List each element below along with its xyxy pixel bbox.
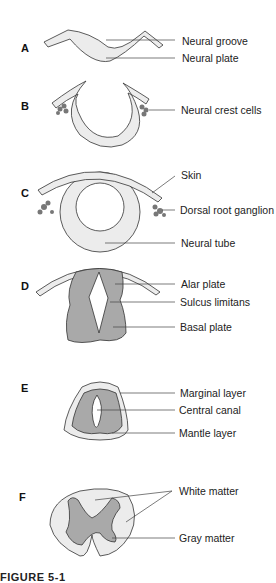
label-sulcus-limitans: Sulcus limitans [180, 296, 250, 308]
panel-label-d: D [21, 280, 29, 292]
label-gray-matter: Gray matter [179, 532, 234, 544]
figure-caption: FIGURE 5-1 [0, 571, 66, 583]
label-basal-plate: Basal plate [180, 321, 232, 333]
panel-label-b: B [21, 100, 29, 112]
neural-folds-shape [52, 81, 149, 147]
panel-label-c: C [21, 187, 29, 199]
panel-label-e: E [21, 382, 28, 394]
label-skin: Skin [181, 169, 201, 181]
label-dorsal-root-ganglion: Dorsal root ganglion [180, 204, 274, 216]
label-mantle-layer: Mantle layer [179, 427, 236, 439]
label-alar-plate: Alar plate [181, 278, 225, 290]
label-central-canal: Central canal [179, 404, 241, 416]
neural-plate-shape [44, 30, 163, 62]
label-white-matter: White matter [179, 485, 239, 497]
label-marginal-layer: Marginal layer [180, 387, 246, 399]
label-neural-groove: Neural groove [182, 35, 248, 47]
label-neural-tube: Neural tube [181, 237, 235, 249]
neural-tube-lumen [76, 183, 124, 231]
panel-label-f: F [19, 491, 26, 503]
panel-label-a: A [21, 42, 29, 54]
label-neural-crest-cells: Neural crest cells [181, 104, 262, 116]
label-neural-plate: Neural plate [182, 52, 239, 64]
